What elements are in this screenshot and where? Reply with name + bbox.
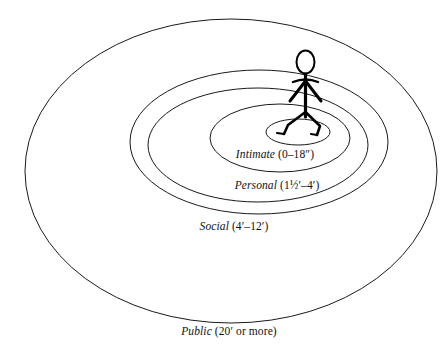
zone-ring-body-base	[266, 119, 330, 145]
zone-label-public: Public (20′ or more)	[181, 325, 277, 337]
zone-range-intimate: (0–18″)	[278, 148, 314, 160]
figure-leg-right	[306, 112, 321, 135]
zone-label-social: Social (4′–12′)	[200, 220, 269, 232]
zone-range-personal: (1½′–4′)	[280, 179, 319, 191]
zone-name-personal: Personal	[235, 179, 277, 191]
zone-name-intimate: Intimate	[236, 148, 275, 160]
proxemics-diagram: Intimate (0–18″) Personal (1½′–4′) Socia…	[0, 0, 448, 355]
figure-foot-left	[277, 133, 284, 134]
zone-range-public: (20′ or more)	[215, 325, 277, 337]
figure-leg-left	[284, 112, 306, 134]
figure-arm-right	[306, 81, 322, 101]
figure-foot-right	[311, 134, 317, 135]
zone-ring-public	[25, 19, 437, 323]
zone-label-intimate: Intimate (0–18″)	[236, 148, 314, 160]
zone-name-social: Social	[200, 220, 229, 232]
zone-ring-intimate	[210, 104, 350, 172]
zone-rings-canvas	[0, 0, 448, 355]
stick-figure-person	[277, 51, 321, 136]
figure-head-icon	[297, 51, 315, 74]
zone-range-social: (4′–12′)	[232, 220, 269, 232]
zone-name-public: Public	[181, 325, 212, 337]
zone-label-personal: Personal (1½′–4′)	[235, 179, 320, 191]
